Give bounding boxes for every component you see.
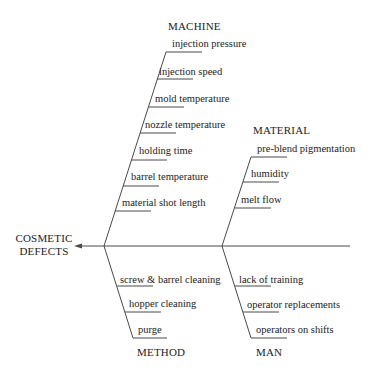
arrowhead-icon: [74, 244, 82, 249]
effect-label-line1: COSMETIC: [15, 232, 72, 244]
cause-label: lack of training: [239, 274, 304, 285]
cause-label: barrel temperature: [131, 171, 209, 182]
cause-label: mold temperature: [155, 93, 230, 104]
material-label: MATERIAL: [253, 124, 310, 136]
category-man: MAN lack of training operator replacemen…: [222, 246, 340, 358]
man-label: MAN: [256, 346, 282, 358]
cause-label: melt flow: [241, 194, 282, 205]
fishbone-diagram: COSMETIC DEFECTS MACHINE injection press…: [0, 0, 381, 374]
cause-label: nozzle temperature: [145, 119, 225, 130]
machine-label: MACHINE: [168, 20, 221, 32]
method-label: METHOD: [137, 346, 185, 358]
cause-label: material shot length: [122, 197, 206, 208]
category-machine: MACHINE injection pressure injection spe…: [104, 20, 247, 246]
cause-label: operator replacements: [247, 299, 340, 310]
cause-label: hopper cleaning: [129, 298, 197, 309]
cause-label: operators on shifts: [256, 324, 334, 335]
cause-label: holding time: [139, 145, 193, 156]
category-material: MATERIAL pre-blend pigmentation humidity…: [222, 124, 356, 246]
cause-label: screw & barrel cleaning: [120, 274, 221, 285]
man-bone: [222, 246, 251, 338]
method-bone: [104, 246, 133, 338]
category-method: METHOD screw & barrel cleaning hopper cl…: [104, 246, 221, 358]
cause-label: pre-blend pigmentation: [257, 143, 356, 154]
cause-label: injection pressure: [172, 38, 247, 49]
cause-label: injection speed: [159, 66, 223, 77]
effect-label-line2: DEFECTS: [19, 245, 68, 257]
cause-label: purge: [138, 324, 162, 335]
cause-label: humidity: [251, 168, 290, 179]
